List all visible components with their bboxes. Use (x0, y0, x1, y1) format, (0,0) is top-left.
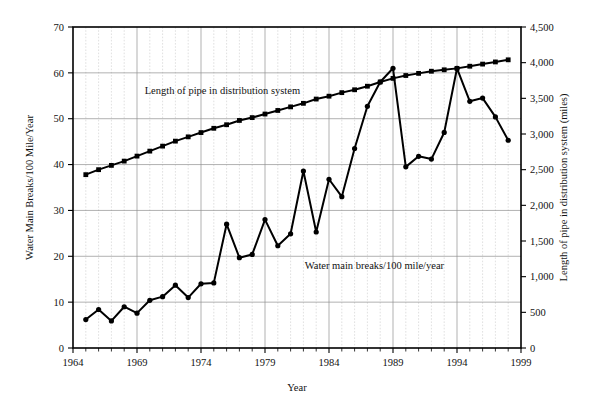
series-annotation-1: Water main breaks/100 mile/year (305, 260, 445, 271)
series-annotation-0: Length of pipe in distribution system (145, 85, 300, 96)
data-point (96, 307, 101, 312)
x-tick-label: 1989 (383, 357, 404, 368)
data-point (262, 217, 267, 222)
x-tick-label: 1999 (511, 357, 532, 368)
x-axis-title: Year (287, 382, 307, 393)
x-tick-label: 1994 (447, 357, 469, 368)
y2-tick-label: 500 (530, 307, 546, 318)
chart-canvas: 1964196919741979198419891994199901020304… (0, 0, 592, 410)
data-point (147, 298, 152, 303)
x-tick-label: 1964 (63, 357, 85, 368)
y2-tick-label: 2,000 (530, 200, 554, 211)
data-point (211, 126, 216, 131)
data-point (454, 66, 459, 71)
data-point (237, 118, 242, 123)
data-point (147, 149, 152, 154)
y2-tick-label: 1,500 (530, 236, 554, 247)
y2-tick-label: 4,500 (530, 22, 554, 33)
data-point (365, 84, 370, 89)
data-point (339, 90, 344, 95)
data-point (506, 138, 511, 143)
y-tick-label: 30 (54, 205, 65, 216)
data-point (109, 163, 114, 168)
y-tick-label: 10 (54, 297, 65, 308)
data-point (352, 87, 357, 92)
data-point (135, 154, 140, 159)
data-point (160, 294, 165, 299)
data-point (250, 252, 255, 257)
data-point (237, 255, 242, 260)
data-point (186, 134, 191, 139)
data-point (403, 164, 408, 169)
y-axis-title: Water Main Breaks/100 Mile/Year (24, 115, 35, 260)
y2-tick-label: 3,500 (530, 93, 554, 104)
data-point (480, 95, 485, 100)
data-point (480, 62, 485, 67)
x-tick-label: 1974 (191, 357, 213, 368)
y2-tick-label: 4,000 (530, 57, 554, 68)
data-point (173, 139, 178, 144)
data-point (134, 311, 139, 316)
data-point (442, 67, 447, 72)
data-point (211, 280, 216, 285)
data-point (442, 130, 447, 135)
y2-axis-title: Length of pipe in distribution system (m… (558, 93, 570, 281)
data-point (173, 283, 178, 288)
data-point (83, 317, 88, 322)
data-point (352, 146, 357, 151)
data-point (122, 304, 127, 309)
data-point (109, 318, 114, 323)
data-point (327, 94, 332, 99)
y-tick-label: 50 (54, 113, 65, 124)
y2-tick-label: 3,000 (530, 129, 554, 140)
data-point (96, 167, 101, 172)
data-point (326, 177, 331, 182)
data-point (314, 97, 319, 102)
data-point (288, 231, 293, 236)
data-point (199, 130, 204, 135)
y2-tick-label: 2,500 (530, 164, 554, 175)
data-point (224, 122, 229, 127)
data-point (275, 243, 280, 248)
data-point (122, 159, 127, 164)
y-tick-label: 70 (54, 22, 65, 33)
data-point (339, 194, 344, 199)
data-point (416, 71, 421, 76)
chart-figure: 1964196919741979198419891994199901020304… (0, 0, 592, 410)
data-point (263, 112, 268, 117)
data-point (288, 104, 293, 109)
data-point (301, 168, 306, 173)
data-point (224, 222, 229, 227)
data-point (493, 114, 498, 119)
data-point (301, 101, 306, 106)
data-point (467, 99, 472, 104)
data-point (403, 73, 408, 78)
data-point (365, 104, 370, 109)
data-point (429, 156, 434, 161)
y2-tick-label: 1,000 (530, 271, 554, 282)
data-point (429, 69, 434, 74)
data-point (378, 79, 383, 84)
data-point (314, 229, 319, 234)
data-point (160, 144, 165, 149)
data-point (506, 57, 511, 62)
data-point (186, 295, 191, 300)
x-tick-label: 1979 (255, 357, 276, 368)
y-tick-label: 0 (59, 343, 64, 354)
data-point (416, 154, 421, 159)
y2-tick-label: 0 (530, 343, 535, 354)
y-tick-label: 20 (54, 251, 65, 262)
data-point (275, 108, 280, 113)
data-point (250, 115, 255, 120)
data-point (467, 64, 472, 69)
x-tick-label: 1984 (319, 357, 341, 368)
x-tick-label: 1969 (127, 357, 148, 368)
data-point (83, 172, 88, 177)
data-point (198, 281, 203, 286)
y-tick-label: 60 (54, 68, 65, 79)
data-point (493, 60, 498, 65)
y-tick-label: 40 (54, 159, 65, 170)
data-point (390, 66, 395, 71)
